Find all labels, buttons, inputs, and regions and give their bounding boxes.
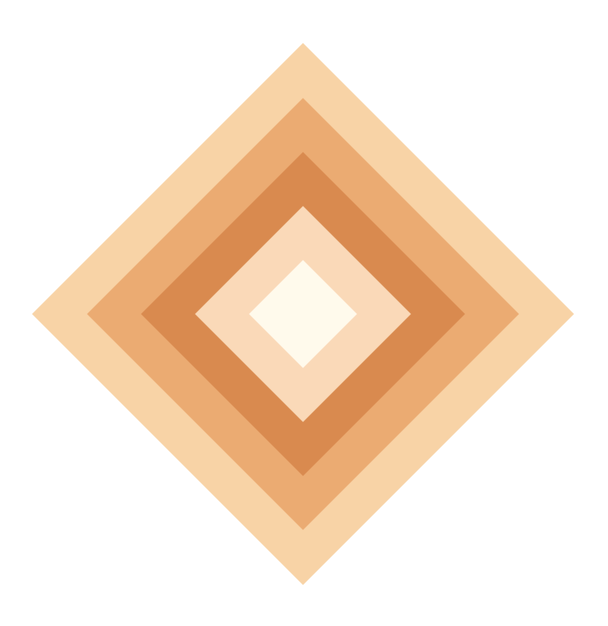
nested-diamonds-artwork: [0, 0, 608, 626]
